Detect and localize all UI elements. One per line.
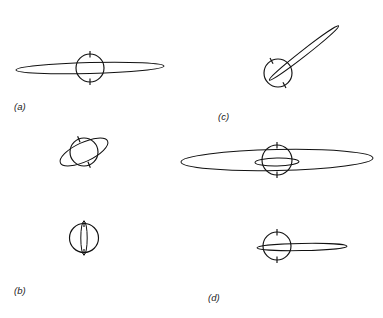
panel-label-d: (d) (208, 292, 220, 303)
panel-label-b: (b) (14, 285, 26, 296)
orbital-diagram-figure: (a)(b)(c)(d) (0, 0, 383, 318)
panel-label-a: (a) (14, 101, 26, 112)
figure-background (0, 0, 383, 318)
panel-label-c: (c) (218, 111, 229, 122)
figure-container: (a)(b)(c)(d) (0, 0, 383, 318)
